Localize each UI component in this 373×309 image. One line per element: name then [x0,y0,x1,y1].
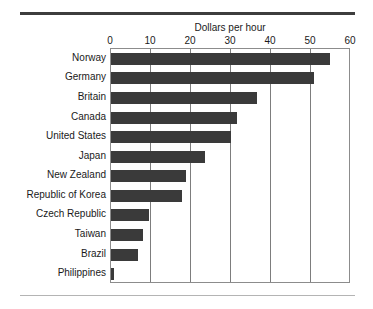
bar [111,112,237,124]
bar [111,190,182,202]
x-tick-label: 10 [144,35,155,47]
bar [111,72,314,84]
x-tick-label: 50 [304,35,315,47]
bar [111,249,138,261]
bar [111,268,114,280]
category-label: Philippines [10,267,106,279]
category-label: United States [10,130,106,142]
category-label: Japan [10,150,106,162]
category-label: Republic of Korea [10,189,106,201]
x-tick-label: 0 [107,35,113,47]
x-tick-label: 20 [184,35,195,47]
x-axis-tick-labels: 0102030405060 [110,35,350,47]
x-tick-label: 30 [224,35,235,47]
category-label: Czech Republic [10,208,106,220]
top-divider-rule [20,12,355,15]
category-label: Taiwan [10,228,106,240]
chart-title: Dollars per hour [110,22,350,34]
bar [111,170,186,182]
bar [111,229,143,241]
category-label: Brazil [10,248,106,260]
bar [111,53,330,65]
category-label: Britain [10,91,106,103]
category-label: Norway [10,52,106,64]
plot-area [110,48,350,283]
category-label: New Zealand [10,169,106,181]
bar [111,131,231,143]
bar [111,151,205,163]
bar [111,92,257,104]
category-label: Germany [10,71,106,83]
bar [111,209,149,221]
x-tick-label: 60 [344,35,355,47]
category-axis-labels: NorwayGermanyBritainCanadaUnited StatesJ… [10,48,106,283]
bottom-divider-rule [20,295,355,296]
bar-series [111,49,349,282]
category-label: Canada [10,111,106,123]
x-tick-label: 40 [264,35,275,47]
figure: Dollars per hour 0102030405060 NorwayGer… [0,0,373,309]
